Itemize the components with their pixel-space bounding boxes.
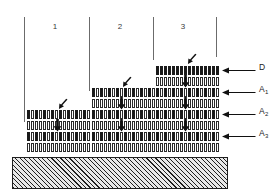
- layer-cell: [160, 143, 163, 152]
- layer-cell: [212, 99, 215, 108]
- layer-cell: [100, 143, 103, 152]
- layer-cell: [216, 99, 219, 108]
- layer-cell: [160, 121, 163, 130]
- layer-cell: [184, 132, 187, 141]
- layer-cell: [172, 77, 175, 86]
- left-arrow-icon: [222, 89, 256, 96]
- layer-cell: [192, 88, 195, 97]
- layer-cell: [71, 132, 74, 141]
- layer-cell: [192, 143, 195, 152]
- layer-cell: [188, 132, 191, 141]
- layer-cell: [128, 88, 131, 97]
- layer-cell: [176, 88, 179, 97]
- layer-cell: [92, 132, 95, 141]
- layer-cell: [67, 143, 70, 152]
- diagonal-arrow-icon: [56, 98, 69, 111]
- layer-cell: [200, 77, 203, 86]
- layer-cell: [67, 121, 70, 130]
- layer-cell: [196, 132, 199, 141]
- layer-cell: [35, 132, 38, 141]
- layer-cell: [216, 77, 219, 86]
- layer-cell: [112, 121, 115, 130]
- layer-cell: [176, 110, 179, 119]
- layer-cell: [140, 132, 143, 141]
- layer-cell: [100, 110, 103, 119]
- layer-cell: [156, 99, 159, 108]
- layer-cell: [39, 121, 42, 130]
- layer-cell: [180, 88, 183, 97]
- layer-cell: [208, 66, 211, 75]
- layer-cell: [71, 143, 74, 152]
- layer-row: [27, 110, 91, 119]
- label-A3-text: A: [259, 128, 265, 138]
- layer-cell: [67, 132, 70, 141]
- layer-cell: [100, 121, 103, 130]
- layer-cell: [208, 110, 211, 119]
- layer-cell: [100, 88, 103, 97]
- label-A3-sub: 3: [265, 133, 268, 139]
- layer-cell: [192, 99, 195, 108]
- layer-row: [156, 110, 220, 119]
- down-arrow-icon: [117, 97, 126, 110]
- layer-cell: [156, 132, 159, 141]
- layer-cell: [160, 110, 163, 119]
- layer-cell: [63, 143, 66, 152]
- layer-cell: [180, 110, 183, 119]
- layer-cell: [108, 121, 111, 130]
- layer-cell: [152, 110, 155, 119]
- layer-cell: [176, 121, 179, 130]
- layer-cell: [152, 99, 155, 108]
- layer-cell: [104, 110, 107, 119]
- label-A1: A1: [259, 85, 268, 95]
- layer-cell: [96, 132, 99, 141]
- layer-cell: [75, 121, 78, 130]
- layer-cell: [136, 110, 139, 119]
- layer-cell: [192, 132, 195, 141]
- layer-cell: [104, 121, 107, 130]
- layer-cell: [67, 110, 70, 119]
- layer-cell: [79, 110, 82, 119]
- layer-cell: [196, 99, 199, 108]
- layer-cell: [204, 88, 207, 97]
- layer-cell: [144, 110, 147, 119]
- layer-cell: [196, 121, 199, 130]
- column-number-3: 3: [173, 22, 193, 32]
- layer-cell: [27, 132, 30, 141]
- layer-cell: [156, 66, 159, 75]
- layer-cell: [188, 88, 191, 97]
- layer-row: [27, 132, 91, 141]
- layer-cell: [192, 110, 195, 119]
- layer-cell: [132, 132, 135, 141]
- layer-cell: [200, 99, 203, 108]
- layer-cell: [152, 121, 155, 130]
- layer-cell: [164, 110, 167, 119]
- layer-cell: [71, 121, 74, 130]
- down-arrow-icon: [181, 75, 190, 88]
- layer-cell: [104, 88, 107, 97]
- layer-cell: [83, 143, 86, 152]
- layer-cell: [35, 143, 38, 152]
- layer-cell: [79, 143, 82, 152]
- layer-cell: [96, 121, 99, 130]
- layer-cell: [43, 132, 46, 141]
- layer-cell: [144, 143, 147, 152]
- layer-cell: [96, 143, 99, 152]
- layer-cell: [156, 88, 159, 97]
- layer-cell: [184, 66, 187, 75]
- layer-cell: [108, 110, 111, 119]
- layer-cell: [35, 110, 38, 119]
- layer-cell: [172, 132, 175, 141]
- layer-cell: [152, 132, 155, 141]
- layer-row: [27, 143, 91, 152]
- layer-cell: [176, 66, 179, 75]
- layer-cell: [132, 88, 135, 97]
- layer-cell: [204, 99, 207, 108]
- layer-cell: [212, 143, 215, 152]
- layer-cell: [132, 110, 135, 119]
- layer-cell: [31, 132, 34, 141]
- layer-cell: [104, 132, 107, 141]
- layer-cell: [192, 66, 195, 75]
- left-arrow-icon: [222, 67, 256, 74]
- layer-cell: [55, 110, 58, 119]
- layer-cell: [196, 143, 199, 152]
